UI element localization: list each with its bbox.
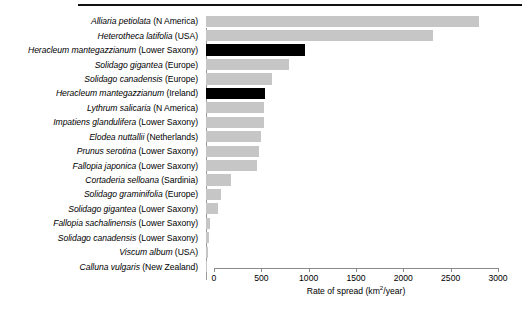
bar-track [206, 130, 496, 144]
chart-row: Solidago graminifolia (Europe) [0, 187, 530, 201]
category-label: Calluna vulgaris (New Zealand) [0, 262, 206, 272]
category-label: Heracleum mantegazzianum (Lower Saxony) [0, 45, 206, 55]
category-label: Prunus serotina (Lower Saxony) [0, 146, 206, 156]
chart-row: Elodea nuttallii (Netherlands) [0, 130, 530, 144]
species-name: Heracleum mantegazzianum [56, 88, 164, 98]
chart-row: Heracleum mantegazzianum (Lower Saxony) [0, 43, 530, 57]
figure-top-rule [78, 4, 522, 6]
category-label: Cortaderia selloana (Sardinia) [0, 175, 206, 185]
x-tick [403, 268, 404, 272]
species-name: Lythrum salicaria [87, 103, 151, 113]
species-name: Calluna vulgaris [80, 262, 140, 272]
bar-track [206, 115, 496, 129]
region-name: (Ireland) [164, 88, 198, 98]
chart-row: Fallopia sachalinensis (Lower Saxony) [0, 216, 530, 230]
bar [206, 117, 264, 128]
chart-row: Viscum album (USA) [0, 245, 530, 259]
x-tick-label: 3000 [488, 273, 507, 283]
bar-track [206, 57, 496, 71]
x-axis-title-tail: /year) [383, 286, 405, 296]
bar [206, 146, 259, 157]
x-tick-label: 1000 [299, 273, 318, 283]
category-label: Alliaria petiolata (N America) [0, 16, 206, 26]
bar-track [206, 245, 496, 259]
bar-track [206, 14, 496, 28]
chart-row: Fallopia japonica (Lower Saxony) [0, 158, 530, 172]
category-label: Lythrum salicaria (N America) [0, 103, 206, 113]
x-tick [498, 268, 499, 272]
bar-track [206, 72, 496, 86]
x-tick [356, 268, 357, 272]
x-tick [261, 268, 262, 272]
chart-row: Solidago canadensis (Europe) [0, 72, 530, 86]
category-label: Solidago gigantea (Europe) [0, 60, 206, 70]
species-name: Prunus serotina [77, 146, 136, 156]
category-label: Elodea nuttallii (Netherlands) [0, 132, 206, 142]
category-label: Solidago canadensis (Europe) [0, 74, 206, 84]
species-name: Fallopia sachalinensis [53, 218, 136, 228]
category-label: Impatiens glandulifera (Lower Saxony) [0, 117, 206, 127]
region-name: (USA) [173, 247, 198, 257]
bar-track [206, 231, 496, 245]
bar [206, 160, 257, 171]
x-tick-label: 2500 [441, 273, 460, 283]
x-axis-title-base: Rate of spread (km [307, 286, 380, 296]
species-name: Impatiens glandulifera [53, 117, 136, 127]
category-label: Heterotheca latifolia (USA) [0, 31, 206, 41]
bar-track [206, 144, 496, 158]
region-name: (Lower Saxony) [136, 204, 198, 214]
bar-highlighted [206, 44, 305, 55]
bar [206, 30, 433, 41]
category-label: Viscum album (USA) [0, 247, 206, 257]
chart-row: Lythrum salicaria (N America) [0, 101, 530, 115]
x-tick [214, 268, 215, 272]
x-tick [309, 268, 310, 272]
chart-row: Alliaria petiolata (N America) [0, 14, 530, 28]
region-name: (Europe) [163, 189, 198, 199]
chart-row: Prunus serotina (Lower Saxony) [0, 144, 530, 158]
figure-bar-chart-rate-of-spread: Alliaria petiolata (N America)Heterothec… [0, 0, 530, 318]
species-name: Cortaderia selloana [85, 175, 159, 185]
species-name: Solidago gigantea [95, 60, 163, 70]
species-name: Solidago graminifolia [84, 189, 163, 199]
bar-highlighted [206, 88, 265, 99]
bar-track [206, 187, 496, 201]
x-tick-label: 0 [212, 273, 217, 283]
bar [206, 59, 289, 70]
species-name: Viscum album [119, 247, 172, 257]
region-name: (USA) [173, 31, 198, 41]
species-name: Elodea nuttallii [89, 132, 144, 142]
bar [206, 174, 231, 185]
category-label: Solidago graminifolia (Europe) [0, 189, 206, 199]
species-name: Solidago canadensis [84, 74, 162, 84]
bar-track [206, 86, 496, 100]
category-label: Solidago gigantea (Lower Saxony) [0, 204, 206, 214]
species-name: Alliaria petiolata [91, 16, 151, 26]
chart-row: Impatiens glandulifera (Lower Saxony) [0, 115, 530, 129]
species-name: Solidago canadensis [58, 233, 136, 243]
x-axis-title: Rate of spread (km2/year) [214, 286, 498, 297]
bar [206, 73, 272, 84]
region-name: (Lower Saxony) [136, 45, 198, 55]
bar-track [206, 216, 496, 230]
species-name: Fallopia japonica [73, 161, 137, 171]
region-name: (N America) [151, 103, 198, 113]
bar [206, 247, 208, 258]
chart-row: Cortaderia selloana (Sardinia) [0, 173, 530, 187]
x-tick-label: 1500 [346, 273, 365, 283]
x-tick-label: 2000 [394, 273, 413, 283]
region-name: (Netherlands) [144, 132, 198, 142]
chart-row: Solidago gigantea (Lower Saxony) [0, 202, 530, 216]
bar [206, 102, 264, 113]
chart-row: Solidago gigantea (Europe) [0, 57, 530, 71]
bar-track [206, 43, 496, 57]
bar [206, 189, 221, 200]
x-tick [451, 268, 452, 272]
region-name: (Sardinia) [159, 175, 198, 185]
x-tick-label: 500 [254, 273, 268, 283]
bar [206, 131, 261, 142]
chart-row: Heracleum mantegazzianum (Ireland) [0, 86, 530, 100]
bar-track [206, 101, 496, 115]
region-name: (Lower Saxony) [136, 146, 198, 156]
region-name: (Lower Saxony) [136, 218, 198, 228]
